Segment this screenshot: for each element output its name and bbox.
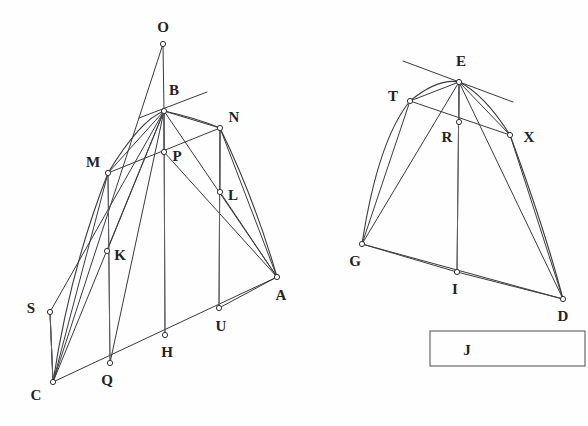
segment-bm (108, 111, 164, 173)
point-marker-l (217, 189, 222, 194)
point-marker-h (162, 332, 167, 337)
ordinate-mq (108, 173, 110, 363)
point-label-a: A (276, 287, 287, 303)
point-marker-x (507, 132, 512, 137)
ordinate-sc (50, 312, 53, 382)
point-label-p: P (172, 148, 181, 164)
point-marker-d (560, 296, 565, 301)
point-label-s: S (27, 300, 35, 316)
point-label-e: E (456, 53, 466, 69)
segment-mc (53, 173, 108, 382)
point-marker-i (454, 269, 459, 274)
right-parabola-curve (362, 81, 563, 299)
left-segments (50, 44, 277, 382)
segment-eg (362, 82, 459, 244)
point-marker-n (217, 125, 222, 130)
point-label-o: O (157, 19, 169, 35)
point-marker-b (161, 108, 166, 113)
segment-ex (459, 82, 510, 135)
point-marker-p (161, 149, 166, 154)
point-label-m: M (86, 154, 100, 170)
right-segments (362, 82, 563, 299)
point-label-x: X (524, 129, 535, 145)
point-marker-e (456, 79, 461, 84)
point-marker-u (216, 305, 221, 310)
point-marker-q (107, 360, 112, 365)
ordinate-bh (164, 111, 165, 335)
point-marker-o (160, 41, 165, 46)
geometry-diagram: OBNMPLKASUHQC ETRXGID J (0, 0, 588, 426)
ordinate-nu (219, 128, 220, 308)
point-marker-k (104, 248, 109, 253)
right-point-markers (359, 79, 565, 301)
segment-id (457, 272, 563, 299)
point-label-c: C (31, 387, 42, 403)
segment-gd (362, 244, 563, 299)
segment-tg (362, 101, 410, 244)
point-label-k: K (114, 247, 126, 263)
segment-tx (410, 101, 510, 135)
segment-bn (164, 111, 220, 128)
point-marker-s (47, 309, 52, 314)
point-label-g: G (349, 253, 361, 269)
segment-la (220, 192, 277, 277)
point-label-i: I (452, 281, 458, 297)
point-marker-c (50, 379, 55, 384)
right-figure: ETRXGID (349, 53, 568, 324)
point-label-h: H (161, 344, 173, 360)
point-label-u: U (216, 318, 227, 334)
figure-root: OBNMPLKASUHQC ETRXGID J (0, 0, 588, 426)
point-marker-t (407, 98, 412, 103)
legend-box-group: J (430, 331, 585, 366)
segment-gi (362, 244, 457, 272)
right-vertical-lines (457, 82, 459, 272)
segment-ua (219, 277, 277, 308)
legend-box-rect (430, 331, 585, 366)
legend-box-label: J (463, 342, 471, 358)
left-point-labels: OBNMPLKASUHQC (27, 19, 287, 403)
point-label-r: R (442, 129, 453, 145)
point-label-d: D (558, 308, 569, 324)
point-label-n: N (229, 109, 240, 125)
point-label-q: Q (101, 372, 113, 388)
segment-xd (510, 135, 563, 299)
point-marker-r (456, 119, 461, 124)
left-figure: OBNMPLKASUHQC (27, 19, 287, 403)
point-label-t: T (388, 88, 398, 104)
point-marker-a (274, 274, 279, 279)
segment-ed (459, 82, 563, 299)
ordinate-ei (457, 82, 459, 272)
point-label-b: B (169, 82, 179, 98)
segment-ob (163, 44, 164, 111)
point-marker-g (359, 241, 364, 246)
segment-bq (110, 111, 164, 363)
point-label-l: L (228, 187, 238, 203)
segment-bs (50, 111, 164, 312)
point-marker-m (105, 170, 110, 175)
segment-et (410, 82, 459, 101)
